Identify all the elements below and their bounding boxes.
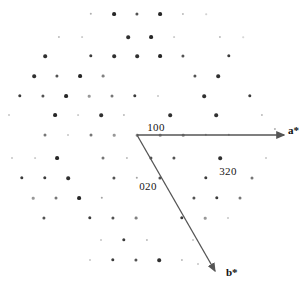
diffraction-spot (204, 176, 207, 179)
b-star-axis-label: b* (226, 266, 238, 278)
reflection-index-label-320: 320 (219, 165, 237, 177)
diffraction-spot (159, 134, 162, 137)
diffraction-spot (112, 176, 115, 179)
diffraction-spot (113, 134, 116, 137)
diffraction-spot (172, 156, 175, 159)
diffraction-spot (146, 239, 148, 241)
diffraction-spot (34, 157, 36, 159)
diffraction-spot (205, 13, 207, 15)
diffraction-spot (101, 197, 103, 199)
diffraction-spot (112, 54, 116, 58)
diffraction-spot (133, 94, 136, 97)
diffraction-spot (136, 177, 138, 179)
diffraction-spot (77, 196, 81, 200)
diffraction-spot (42, 216, 45, 219)
diffraction-spot (111, 95, 114, 98)
diffraction-spot (89, 54, 92, 57)
diffraction-spot (168, 113, 172, 117)
diffraction-spot (265, 157, 267, 159)
diffraction-spot (135, 54, 139, 58)
reciprocal-vector-layer (0, 0, 303, 288)
diffraction-spot (8, 114, 10, 116)
diffraction-spot (43, 176, 46, 179)
diffraction-spot (239, 197, 242, 200)
diffraction-spot (67, 134, 69, 136)
diffraction-spot (126, 35, 130, 39)
diffraction-spot (214, 113, 218, 117)
diffraction-spot (158, 176, 161, 179)
diffraction-spot (192, 196, 195, 199)
diffraction-pattern-figure: a* b* 100 020 320 (0, 0, 303, 288)
diffraction-spot (149, 156, 152, 159)
diffraction-spot (135, 12, 138, 15)
diffraction-spot (135, 217, 138, 220)
diffraction-spot (64, 94, 68, 98)
diffraction-spot (66, 176, 70, 180)
reflection-index-label-020: 020 (139, 180, 157, 192)
diffraction-spot (55, 197, 58, 200)
diffraction-spot (261, 114, 263, 116)
diffraction-spot (251, 177, 254, 180)
diffraction-spot (58, 36, 60, 38)
diffraction-spot (182, 134, 185, 137)
diffraction-spot (192, 239, 194, 241)
diffraction-spot (202, 94, 206, 98)
diffraction-spot (53, 113, 57, 117)
diffraction-spot (182, 13, 184, 15)
diffraction-spot (123, 114, 125, 116)
diffraction-spot (157, 258, 161, 262)
diffraction-spot (20, 176, 23, 179)
diffraction-spot (248, 94, 251, 97)
diffraction-spot (227, 217, 229, 219)
diffraction-spot (204, 217, 207, 220)
diffraction-spot (55, 74, 58, 77)
diffraction-spot (99, 113, 103, 117)
diffraction-spot (197, 263, 199, 265)
diffraction-spot (111, 216, 114, 219)
diffraction-spot (134, 258, 137, 261)
diffraction-spot (136, 134, 139, 137)
a-star-axis-label: a* (288, 124, 299, 136)
reflection-index-label-100: 100 (147, 121, 165, 133)
diffraction-spot (32, 197, 35, 200)
basis-vector-arrows (137, 135, 284, 271)
diffraction-spot (158, 12, 162, 16)
diffraction-spot (180, 216, 183, 219)
diffraction-spot (81, 36, 83, 38)
diffraction-spot (158, 54, 162, 58)
diffraction-spot (193, 74, 196, 77)
diffraction-spot (88, 216, 91, 219)
diffraction-spot (102, 75, 105, 78)
diffraction-spot (18, 94, 21, 97)
diffraction-spot (173, 36, 175, 38)
diffraction-spot (44, 134, 47, 137)
diffraction-spot (43, 54, 47, 58)
diffraction-spot (219, 36, 221, 38)
diffraction-spot (227, 54, 230, 57)
diffraction-spot (111, 258, 114, 261)
diffraction-spot (88, 95, 91, 98)
diffraction-spot (274, 128, 276, 130)
diffraction-spot (102, 157, 105, 160)
diffraction-spot (181, 54, 184, 57)
diffraction-spot (32, 74, 36, 78)
diffraction-spot (78, 74, 82, 78)
diffraction-spot (55, 156, 59, 160)
diffraction-spot (89, 259, 91, 261)
b-star-vector-arrow (137, 135, 215, 271)
diffraction-spot (41, 94, 44, 97)
diffraction-spot (90, 134, 93, 137)
diffraction-spot (215, 196, 218, 199)
diffraction-spot (242, 36, 244, 38)
diffraction-spot (181, 259, 183, 261)
diffraction-spot (90, 13, 92, 15)
diffraction-spot (122, 238, 125, 241)
diffraction-spot (11, 157, 13, 159)
diffraction-spot (216, 74, 220, 78)
diffraction-spot (149, 35, 153, 39)
diffraction-spot (126, 157, 128, 159)
diffraction-spot (218, 156, 222, 160)
diffraction-spot (77, 114, 79, 116)
diffraction-spot (157, 95, 159, 97)
diffraction-spot (112, 12, 116, 16)
